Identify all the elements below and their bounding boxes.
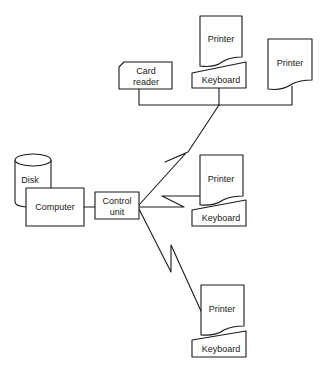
terminal-middle-keyboard-label: Keyboard xyxy=(202,213,241,223)
terminal-top: Keyboard Printer xyxy=(192,16,246,88)
control-unit-label-line1: Control xyxy=(102,196,131,206)
printer-right-label: Printer xyxy=(277,58,304,68)
card-reader-label-line1: Card xyxy=(136,66,156,76)
card-reader: Card reader xyxy=(119,62,172,89)
control-unit-label-line2: unit xyxy=(110,207,125,217)
terminal-top-keyboard-label: Keyboard xyxy=(202,75,241,85)
control-unit: Control unit xyxy=(95,192,139,219)
terminal-bottom: Keyboard Printer xyxy=(192,285,246,357)
card-reader-label-line2: reader xyxy=(133,77,159,87)
printer-right: Printer xyxy=(268,39,312,89)
network-diagram: Disk Computer Control unit Card reader K… xyxy=(0,0,325,367)
disk-label: Disk xyxy=(21,175,39,185)
terminal-middle-printer-label: Printer xyxy=(208,174,235,184)
terminal-bottom-printer-label: Printer xyxy=(209,304,236,314)
disk-top xyxy=(15,154,51,166)
terminal-top-printer-label: Printer xyxy=(208,34,235,44)
computer: Computer xyxy=(26,188,84,226)
computer-label: Computer xyxy=(35,202,75,212)
terminal-middle: Keyboard Printer xyxy=(192,155,246,226)
terminal-bottom-keyboard-label: Keyboard xyxy=(202,344,241,354)
link-to-middle-terminal xyxy=(139,196,201,207)
